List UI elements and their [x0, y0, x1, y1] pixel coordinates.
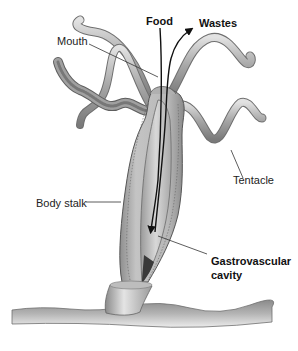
hydra-body — [120, 88, 184, 283]
hydra-diagram: Food Wastes Mouth Tentacle Body stalk Ga… — [0, 0, 298, 351]
label-wastes: Wastes — [199, 17, 237, 29]
label-body-stalk: Body stalk — [36, 197, 87, 209]
label-gastrovascular: Gastrovascular — [211, 255, 291, 267]
label-tentacle: Tentacle — [233, 174, 274, 186]
label-mouth: Mouth — [57, 35, 88, 47]
label-food: Food — [146, 15, 173, 27]
label-cavity: cavity — [211, 269, 242, 281]
